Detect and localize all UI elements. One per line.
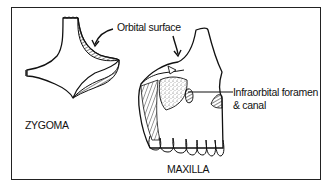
zygoma-drawing	[25, 17, 119, 98]
label-infraorbital-foramen: Infraorbital foramen	[233, 86, 318, 98]
label-infraorbital-canal: & canal	[233, 99, 266, 111]
label-orbital-surface: Orbital surface	[117, 21, 181, 33]
label-zygoma: ZYGOMA	[25, 119, 69, 131]
label-maxilla: MAXILLA	[167, 163, 209, 175]
